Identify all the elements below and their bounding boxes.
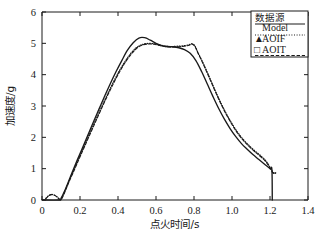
- x-tick-label: 0.4: [111, 205, 125, 216]
- y-axis-title: 加速度/g: [4, 86, 16, 126]
- y-tick-label: 4: [31, 69, 37, 80]
- y-tick-label: 0: [31, 195, 36, 206]
- y-tick-label: 5: [31, 38, 36, 49]
- x-tick-label: 1.4: [301, 205, 315, 216]
- x-tick-label: 1.2: [263, 205, 276, 216]
- legend-marker-aoit: □: [254, 44, 260, 55]
- y-tick-label: 1: [31, 163, 36, 174]
- x-tick-label: 0.2: [73, 205, 86, 216]
- x-tick-label: 0.6: [149, 205, 162, 216]
- chart-legend: 数据源 Model AOIF ▲ AOIT □: [251, 11, 308, 57]
- y-tick-label: 3: [31, 101, 36, 112]
- chart-plot-area: 00.20.40.60.81.01.21.4 0123456 点火时间/s 加速…: [0, 0, 324, 235]
- x-tick-label: 0: [39, 205, 44, 216]
- chart-figure: 00.20.40.60.81.01.21.4 0123456 点火时间/s 加速…: [0, 0, 324, 235]
- x-axis-title: 点火时间/s: [150, 218, 199, 230]
- x-tick-label: 1.0: [225, 205, 238, 216]
- legend-label-aoit: AOIT: [262, 44, 286, 55]
- y-tick-label: 6: [31, 7, 36, 18]
- x-tick-label: 0.8: [187, 205, 200, 216]
- y-tick-label: 2: [31, 132, 36, 143]
